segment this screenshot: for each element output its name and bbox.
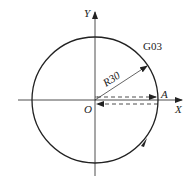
radius-label: R30 bbox=[100, 69, 123, 90]
command-label: G03 bbox=[143, 40, 162, 52]
x-axis-label: X bbox=[174, 103, 183, 115]
point-a-label: A bbox=[160, 88, 168, 100]
origin-label: O bbox=[84, 103, 92, 115]
circular-interpolation-diagram: Y X O A G03 R30 bbox=[0, 0, 192, 190]
y-axis-label: Y bbox=[84, 7, 92, 19]
